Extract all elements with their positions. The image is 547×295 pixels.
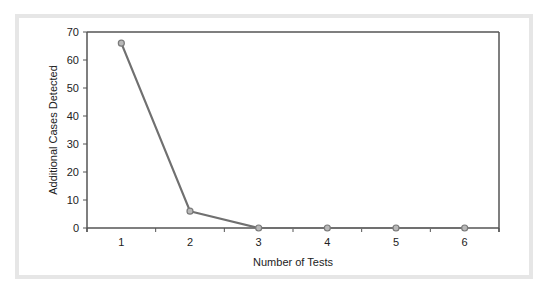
- y-tick-label: 70: [67, 26, 79, 38]
- data-point: [118, 40, 124, 46]
- y-tick-label: 60: [67, 54, 79, 66]
- data-point: [324, 225, 330, 231]
- y-tick-label: 50: [67, 82, 79, 94]
- x-tick-label: 3: [256, 236, 262, 248]
- series-line: [121, 43, 464, 228]
- x-tick-label: 5: [393, 236, 399, 248]
- y-tick-label: 20: [67, 166, 79, 178]
- data-point: [256, 225, 262, 231]
- data-point: [462, 225, 468, 231]
- axes: [87, 32, 499, 232]
- y-tick-label: 10: [67, 194, 79, 206]
- series-group: [118, 40, 467, 231]
- line-chart: 010203040506070 123456 Number of Tests A…: [0, 0, 547, 295]
- data-point: [393, 225, 399, 231]
- y-tick-label: 0: [73, 222, 79, 234]
- y-axis-title: Additional Cases Detected: [47, 65, 59, 195]
- x-axis-ticks: 123456: [87, 228, 499, 248]
- x-tick-label: 6: [462, 236, 468, 248]
- x-axis-title: Number of Tests: [253, 256, 333, 268]
- y-tick-label: 30: [67, 138, 79, 150]
- x-tick-label: 1: [118, 236, 124, 248]
- x-tick-label: 2: [187, 236, 193, 248]
- data-point: [187, 208, 193, 214]
- x-tick-label: 4: [324, 236, 330, 248]
- y-axis-ticks: 010203040506070: [67, 26, 87, 234]
- y-tick-label: 40: [67, 110, 79, 122]
